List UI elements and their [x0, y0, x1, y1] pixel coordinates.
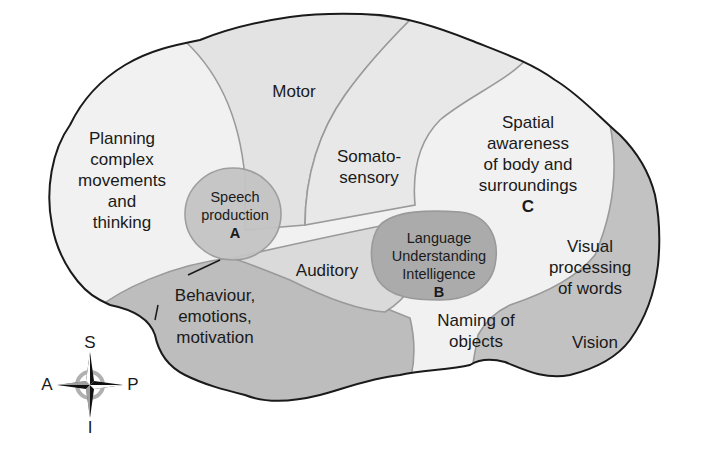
compass-rose-icon: [57, 352, 123, 418]
label-behaviour: Behaviour, emotions, motivation: [175, 285, 255, 348]
label-spatial-awareness: Spatial awareness of body and surroundin…: [479, 112, 577, 217]
area-letter-b: B: [392, 283, 486, 301]
label-visual-processing: Visual processing of words: [549, 236, 631, 299]
compass-superior: S: [84, 333, 95, 353]
brain-diagram: Planning complex movements and thinking …: [0, 0, 711, 461]
compass-inferior: I: [88, 418, 93, 438]
label-somatosensory: Somato- sensory: [337, 146, 401, 188]
label-vision: Vision: [572, 332, 618, 353]
compass-posterior: P: [127, 375, 138, 395]
area-letter-c: C: [479, 196, 577, 217]
label-naming-objects: Naming of objects: [437, 310, 514, 352]
label-language: Language Understanding Intelligence B: [392, 229, 486, 301]
label-planning: Planning complex movements and thinking: [78, 128, 166, 233]
label-auditory: Auditory: [296, 260, 358, 281]
area-letter-a: A: [201, 224, 269, 242]
compass-anterior: A: [41, 375, 52, 395]
label-speech-production: Speech production A: [201, 188, 269, 242]
label-motor: Motor: [272, 81, 315, 102]
